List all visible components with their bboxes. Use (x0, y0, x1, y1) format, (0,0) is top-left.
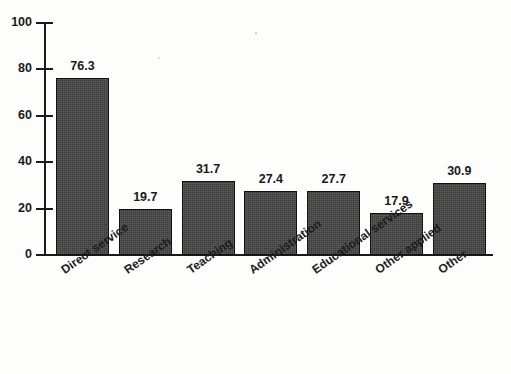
y-tick-label: 0 (2, 248, 32, 261)
bar-value-label: 76.3 (44, 60, 121, 73)
y-tick-label: 100 (2, 16, 32, 29)
bar-other[interactable] (433, 183, 486, 255)
y-tick-label: 80 (2, 62, 32, 75)
bar-direct-service[interactable] (56, 78, 109, 255)
y-tick-label: 20 (2, 202, 32, 215)
y-tick-label: 40 (2, 155, 32, 168)
scan-speck-artifact (255, 32, 257, 34)
y-tick-mark (36, 208, 53, 210)
y-tick-mark (36, 22, 53, 24)
y-tick-label: 60 (2, 109, 32, 122)
bar-chart-plot-area: 020406080100 76.319.731.727.427.717.930.… (0, 0, 511, 374)
y-axis-line (44, 23, 46, 256)
scan-speck-artifact (158, 57, 160, 59)
y-tick-mark (36, 254, 53, 256)
y-tick-mark (36, 115, 53, 117)
bar-value-label: 27.7 (295, 173, 372, 186)
bar-value-label: 30.9 (421, 165, 498, 178)
chart-page: 020406080100 76.319.731.727.427.717.930.… (0, 0, 511, 374)
bar-value-label: 19.7 (107, 191, 184, 204)
y-tick-mark (36, 161, 53, 163)
